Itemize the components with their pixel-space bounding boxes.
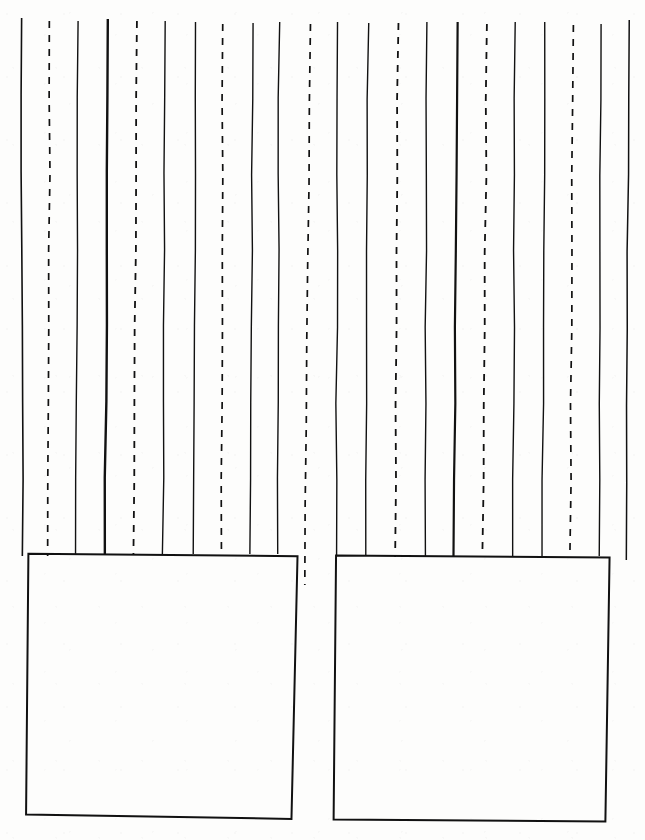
page-background	[0, 0, 645, 840]
vertical-line-diagram	[0, 0, 645, 840]
diagram-canvas	[0, 0, 645, 840]
